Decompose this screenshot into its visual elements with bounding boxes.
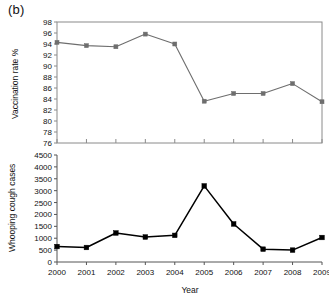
data-point-marker (143, 235, 148, 240)
y-tick-label: 4500 (34, 151, 52, 160)
data-point-marker (202, 184, 207, 189)
chart-vaccination-rate: 767880828486889092949698 (43, 18, 324, 148)
y-tick-label: 500 (39, 246, 53, 255)
x-tick-label: 2007 (254, 268, 272, 277)
data-point-marker (261, 247, 266, 252)
y-tick-label: 82 (43, 106, 52, 115)
y-tick-label: 1000 (34, 234, 52, 243)
data-point-marker (232, 92, 236, 96)
data-point-marker (173, 42, 177, 46)
x-tick-label: 2000 (48, 268, 66, 277)
y-tick-label: 88 (43, 73, 52, 82)
data-point-marker (172, 233, 177, 238)
data-point-marker (320, 235, 325, 240)
y-tick-label: 80 (43, 117, 52, 126)
y-tick-label: 76 (43, 139, 52, 148)
y-tick-label: 96 (43, 29, 52, 38)
x-tick-label: 2005 (195, 268, 213, 277)
x-tick-label: 2006 (225, 268, 243, 277)
y-tick-label: 1500 (34, 222, 52, 231)
x-tick-label: 2004 (166, 268, 184, 277)
x-tick-label: 2002 (107, 268, 125, 277)
data-point-marker (290, 248, 295, 253)
y-tick-label: 86 (43, 84, 52, 93)
y-tick-label: 90 (43, 62, 52, 71)
data-point-marker (55, 244, 60, 249)
data-point-marker (320, 100, 324, 104)
data-line (57, 34, 322, 102)
y-tick-label: 4000 (34, 163, 52, 172)
data-point-marker (143, 32, 147, 36)
x-tick-label: 2003 (136, 268, 154, 277)
y-tick-label: 3000 (34, 187, 52, 196)
data-point-marker (84, 44, 88, 48)
data-line (57, 186, 322, 250)
data-point-marker (261, 92, 265, 96)
y-tick-label: 94 (43, 40, 52, 49)
y-tick-label: 2500 (34, 199, 52, 208)
data-point-marker (114, 231, 119, 236)
x-tick-label: 2009 (313, 268, 329, 277)
y-tick-label: 84 (43, 95, 52, 104)
data-point-marker (55, 40, 59, 44)
data-point-marker (114, 45, 118, 49)
data-point-marker (202, 99, 206, 103)
chart-whooping-cough-cases: 0500100015002000250030003500400045002000… (34, 151, 329, 277)
data-point-marker (291, 82, 295, 86)
data-point-marker (231, 222, 236, 227)
data-point-marker (84, 245, 89, 250)
plot-frame (57, 22, 322, 143)
y-tick-label: 0 (48, 258, 53, 267)
y-tick-label: 98 (43, 18, 52, 27)
y-tick-label: 2000 (34, 210, 52, 219)
figure-panel-b: (b) Vaccination rate % Whooping cough ca… (0, 0, 329, 300)
charts-svg: 767880828486889092949698 050010001500200… (0, 0, 329, 300)
y-tick-label: 92 (43, 51, 52, 60)
y-tick-label: 78 (43, 128, 52, 137)
x-tick-label: 2008 (284, 268, 302, 277)
x-tick-label: 2001 (78, 268, 96, 277)
y-tick-label: 3500 (34, 175, 52, 184)
